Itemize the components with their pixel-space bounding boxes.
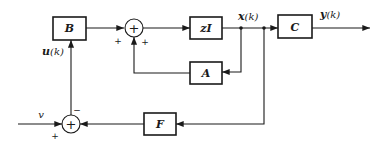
block-zi: zI — [190, 17, 222, 39]
sum-junction-state: + + + — [114, 19, 149, 47]
block-a-label: A — [201, 67, 211, 80]
block-diagram: B + + + zI x(k) C y(k) A — [0, 0, 377, 146]
sum-input-sign-minus: − — [73, 105, 81, 115]
block-f: F — [144, 113, 176, 135]
block-a: A — [190, 62, 222, 84]
block-zi-label: zI — [199, 22, 212, 35]
sum-state-sign-left: + — [114, 36, 122, 46]
block-b: B — [53, 17, 86, 40]
block-b-label: B — [64, 22, 74, 35]
sum-junction-input: + + − — [51, 105, 81, 141]
block-c: C — [278, 15, 312, 38]
signal-x-label: x(k) — [237, 10, 259, 23]
arrow-x-to-a — [222, 28, 241, 72]
block-f-label: F — [155, 118, 165, 131]
sum-state-symbol: + — [129, 21, 140, 36]
signal-y-label: y(k) — [319, 8, 340, 21]
sum-state-sign-bottom: + — [141, 37, 149, 47]
block-c-label: C — [291, 21, 300, 34]
signal-u-label: u(k) — [42, 45, 64, 58]
signal-v-label: v — [38, 109, 44, 120]
sum-input-symbol: + — [66, 117, 77, 132]
sum-input-sign-plus: + — [51, 131, 59, 141]
